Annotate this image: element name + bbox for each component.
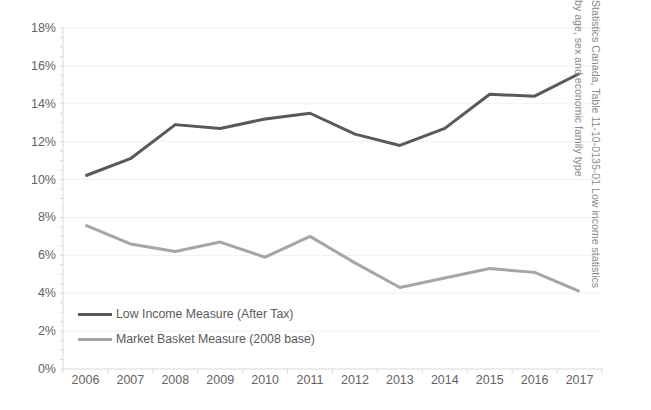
y-tick-label: 4% [8,287,56,300]
line-chart: 0%2%4%6%8%10%12%14%16%18% 20062007200820… [0,0,651,410]
legend-swatch-line-icon [78,338,112,341]
y-axis: 0%2%4%6%8%10%12%14%16%18% [0,0,56,410]
data-series [85,73,579,291]
source-attribution: Statistics Canada, Table 11-10-0135-01 L… [560,0,604,410]
y-tick-label: 14% [8,98,56,111]
legend-item-market-basket-measure: Market Basket Measure (2008 base) [78,327,378,352]
y-tick-label: 12% [8,135,56,148]
source-line-2: by age, sex and economic family type [570,0,587,177]
x-axis: 2006200720082009201020112012201320142015… [63,374,602,398]
legend-label: Market Basket Measure (2008 base) [116,333,315,345]
chart-legend: Low Income Measure (After Tax) Market Ba… [78,302,378,352]
legend-swatch-line-icon [78,313,112,316]
y-tick-label: 2% [8,325,56,338]
y-tick-label: 6% [8,249,56,262]
y-tick-label: 0% [8,363,56,376]
y-tick-label: 8% [8,211,56,224]
source-line-1: Statistics Canada, Table 11-10-0135-01 L… [587,0,604,288]
legend-item-low-income-measure: Low Income Measure (After Tax) [78,302,378,327]
y-tick-label: 16% [8,60,56,73]
series-line-1 [85,225,579,291]
legend-label: Low Income Measure (After Tax) [116,308,293,320]
gridlines [63,28,602,331]
series-line-0 [85,73,579,175]
y-tick-label: 10% [8,173,56,186]
y-tick-label: 18% [8,22,56,35]
